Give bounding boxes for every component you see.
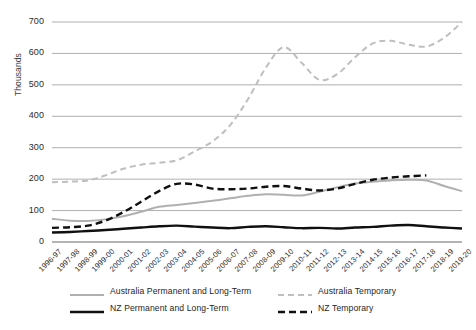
legend-swatch [70, 286, 104, 296]
legend-swatch [278, 286, 312, 296]
series-line [52, 180, 462, 221]
y-gridlines [52, 22, 462, 242]
series-line [52, 175, 426, 227]
legend-swatch [70, 303, 104, 313]
legend-label: NZ Temporary [318, 303, 373, 313]
legend-swatch [278, 303, 312, 313]
legend-label: Australia Permanent and Long-Term [110, 286, 251, 296]
legend-item[interactable]: Australia Permanent and Long-Term [70, 283, 251, 298]
chart-legend: Australia Permanent and Long-TermAustral… [70, 283, 470, 317]
series-line [52, 22, 462, 182]
legend-label: Australia Temporary [318, 286, 396, 296]
legend-item[interactable]: NZ Permanent and Long-Term [70, 300, 229, 315]
series-line [52, 225, 462, 233]
line-chart: Thousands 0100200300400500600700 1996-97… [0, 0, 476, 330]
legend-label: NZ Permanent and Long-Term [110, 303, 229, 313]
legend-item[interactable]: Australia Temporary [278, 283, 396, 298]
legend-item[interactable]: NZ Temporary [278, 300, 373, 315]
